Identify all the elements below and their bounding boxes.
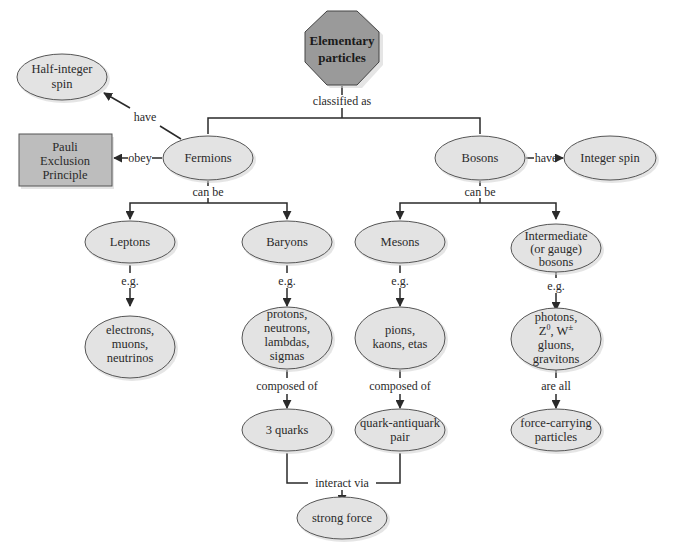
half-integer-line2: spin (52, 77, 74, 91)
edge-classified-bar (208, 118, 480, 134)
baryon-examples-line1: protons, (267, 307, 308, 321)
concept-map: Elementary particles Half-integer spin P… (0, 0, 690, 556)
link-classified-as: classified as (313, 94, 372, 108)
node-baryon-examples: protons, neutrons, lambdas, sigmas (242, 307, 335, 372)
quark-antiquark-line2: pair (390, 430, 410, 444)
node-force-carrying-particles: force-carrying particles (511, 409, 604, 454)
link-are-all: are all (541, 379, 571, 393)
baryon-examples-line3: lambdas, (265, 335, 310, 349)
pauli-line3: Principle (42, 168, 88, 182)
root-label-line1: Elementary (310, 33, 375, 48)
link-mesons-eg: e.g. (391, 274, 408, 288)
node-boson-examples: photons, Z0, W± gluons, gravitons (511, 308, 604, 373)
fermions-label: Fermions (184, 151, 231, 165)
meson-examples-line1: pions, (385, 323, 415, 337)
force-carrying-line1: force-carrying (520, 416, 592, 430)
node-half-integer-spin: Half-integer spin (17, 54, 110, 103)
bosons-label: Bosons (462, 151, 499, 165)
node-mesons: Mesons (355, 221, 448, 266)
leptons-label: Leptons (110, 235, 150, 249)
lepton-examples-line3: neutrinos (107, 351, 154, 365)
node-elementary-particles: Elementary particles (305, 11, 383, 88)
baryons-label: Baryons (266, 235, 308, 249)
node-leptons: Leptons (85, 221, 178, 266)
pauli-line2: Exclusion (40, 154, 91, 168)
node-three-quarks: 3 quarks (242, 409, 335, 454)
root-label-line2: particles (318, 50, 366, 65)
boson-examples-line3: gluons, (538, 338, 574, 352)
link-baryons-composed-of: composed of (256, 379, 318, 393)
edge-interact-right (376, 453, 400, 483)
boson-examples-line4: gravitons (533, 352, 580, 366)
edge-fcanbe-bar (130, 203, 287, 219)
lepton-examples-line2: muons, (112, 337, 148, 351)
link-bosons-can-be: can be (465, 185, 496, 199)
node-baryons: Baryons (242, 221, 335, 266)
mesons-label: Mesons (381, 235, 420, 249)
node-strong-force: strong force (297, 497, 390, 542)
boson-examples-line2: Z0, W± (539, 322, 573, 338)
pauli-line1: Pauli (52, 140, 78, 154)
link-fermions-obey: obey (128, 151, 151, 165)
intermediate-line1: Intermediate (524, 229, 588, 243)
edge-have-lower (160, 126, 181, 139)
node-integer-spin: Integer spin (564, 136, 659, 183)
force-carrying-line2: particles (535, 430, 577, 444)
baryon-examples-line2: neutrons, (264, 321, 310, 335)
edge-interact-left (287, 453, 308, 483)
lepton-examples-line1: electrons, (106, 323, 154, 337)
link-interact-via: interact via (315, 476, 369, 490)
intermediate-line2: (or gauge) (530, 242, 582, 256)
edge-bcanbe-bar (400, 203, 556, 219)
strong-force-label: strong force (312, 511, 372, 525)
node-quark-antiquark-pair: quark-antiquark pair (355, 409, 448, 454)
node-lepton-examples: electrons, muons, neutrinos (85, 316, 178, 381)
node-meson-examples: pions, kaons, etas (355, 307, 448, 372)
baryon-examples-line4: sigmas (270, 349, 305, 363)
node-bosons: Bosons (435, 136, 528, 183)
intermediate-line3: bosons (539, 255, 574, 269)
node-fermions: Fermions (163, 136, 256, 183)
link-fermions-can-be: can be (193, 185, 224, 199)
link-leptons-eg: e.g. (121, 274, 138, 288)
node-pauli-exclusion-principle: Pauli Exclusion Principle (19, 134, 114, 189)
integer-spin-label: Integer spin (580, 151, 640, 165)
link-baryons-eg: e.g. (278, 274, 295, 288)
quark-antiquark-line1: quark-antiquark (360, 416, 441, 430)
three-quarks-label: 3 quarks (266, 423, 309, 437)
node-intermediate-bosons: Intermediate (or gauge) bosons (511, 224, 604, 275)
link-intermediate-eg: e.g. (547, 279, 564, 293)
link-fermions-have: have (134, 110, 157, 124)
link-bosons-have: have (535, 151, 558, 165)
meson-examples-line2: kaons, etas (373, 337, 428, 351)
edge-have-upper (104, 93, 130, 108)
half-integer-line1: Half-integer (31, 62, 93, 76)
link-mesons-composed-of: composed of (369, 379, 431, 393)
